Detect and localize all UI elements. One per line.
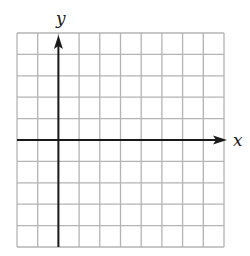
axes: [17, 35, 227, 247]
x-axis-label: x: [233, 130, 243, 150]
coordinate-grid-diagram: x y: [0, 0, 250, 256]
y-axis-label: y: [55, 8, 66, 28]
